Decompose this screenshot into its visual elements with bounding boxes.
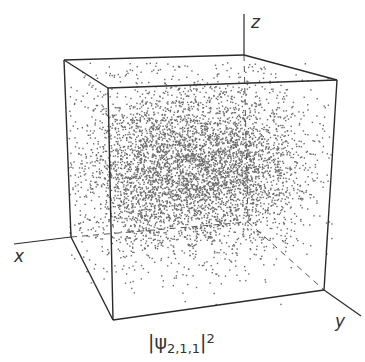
figure-caption: |ψ2,1,1|2 bbox=[148, 332, 215, 355]
caption-subscript: 2,1,1 bbox=[167, 341, 200, 356]
z-axis-label: z bbox=[251, 14, 260, 31]
cube-scatter-figure bbox=[0, 0, 365, 362]
caption-psi-symbol: ψ bbox=[154, 331, 167, 353]
caption-superscript: 2 bbox=[206, 331, 214, 346]
y-axis-label: y bbox=[335, 313, 345, 330]
x-axis-label: x bbox=[14, 248, 24, 265]
x-axis bbox=[14, 237, 71, 244]
